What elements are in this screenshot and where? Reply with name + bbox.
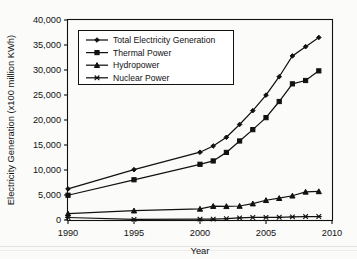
triangle-marker-icon: [263, 198, 268, 203]
y-tick-label: 25,000: [33, 90, 61, 100]
y-tick-label: 10,000: [33, 165, 61, 175]
triangle-marker-icon: [131, 208, 136, 213]
x-tick-label: 1990: [58, 228, 78, 238]
square-marker-icon: [304, 78, 308, 82]
x-axis: 19901995200020052010: [58, 220, 342, 238]
y-axis: 05,00010,00015,00020,00025,00030,00035,0…: [33, 15, 68, 225]
x-tick-label: 2010: [322, 228, 342, 238]
y-tick-label: 15,000: [33, 140, 61, 150]
y-tick-label: 40,000: [33, 15, 61, 25]
cross-marker-icon: [276, 215, 282, 220]
square-marker-icon: [251, 128, 255, 132]
line-chart: 05,00010,00015,00020,00025,00030,00035,0…: [0, 0, 357, 259]
y-tick-label: 5,000: [38, 190, 61, 200]
triangle-marker-icon: [237, 203, 242, 208]
triangle-marker-icon: [224, 204, 229, 209]
square-marker-icon: [224, 150, 228, 154]
chart-legend: Total Electricity GenerationThermal Powe…: [79, 31, 234, 85]
cross-marker-icon: [290, 215, 296, 220]
square-marker-icon: [66, 193, 70, 197]
chart-figure: 05,00010,00015,00020,00025,00030,00035,0…: [0, 0, 357, 259]
triangle-marker-icon: [211, 204, 216, 209]
square-marker-icon: [198, 162, 202, 166]
square-marker-icon: [290, 82, 294, 86]
square-marker-icon: [264, 116, 268, 120]
cross-marker-icon: [250, 215, 256, 220]
triangle-marker-icon: [250, 201, 255, 206]
square-marker-icon: [211, 159, 215, 163]
legend-label: Total Electricity Generation: [113, 35, 215, 45]
triangle-marker-icon: [316, 189, 321, 194]
x-axis-title: Year: [191, 245, 210, 256]
series-line: [68, 191, 319, 213]
legend-label: Thermal Power: [113, 48, 171, 58]
diamond-marker-icon: [198, 150, 203, 155]
legend-label: Hydropower: [113, 60, 159, 70]
triangle-marker-icon: [277, 196, 282, 201]
cross-marker-icon: [263, 215, 269, 220]
triangle-marker-icon: [290, 193, 295, 198]
y-tick-label: 35,000: [33, 40, 61, 50]
series-3: [65, 189, 321, 216]
square-marker-icon: [277, 99, 281, 103]
y-tick-label: 20,000: [33, 115, 61, 125]
square-marker-icon: [95, 51, 99, 55]
series-line: [68, 71, 319, 195]
y-tick-label: 0: [56, 215, 61, 225]
x-tick-label: 2000: [190, 228, 210, 238]
x-tick-label: 1995: [124, 228, 144, 238]
legend-label: Nuclear Power: [113, 73, 169, 83]
square-marker-icon: [132, 178, 136, 182]
cross-marker-icon: [316, 214, 322, 219]
square-marker-icon: [317, 69, 321, 73]
diamond-marker-icon: [66, 187, 71, 192]
triangle-marker-icon: [197, 206, 202, 211]
triangle-marker-icon: [303, 189, 308, 194]
cross-marker-icon: [237, 216, 243, 221]
diamond-marker-icon: [132, 167, 137, 172]
cross-marker-icon: [303, 214, 309, 219]
y-axis-title: Electricity Generation (x100 million KWh…: [5, 35, 16, 205]
square-marker-icon: [238, 139, 242, 143]
y-tick-label: 30,000: [33, 65, 61, 75]
x-tick-label: 2005: [256, 228, 276, 238]
